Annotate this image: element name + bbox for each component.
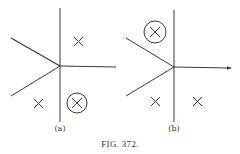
- cross-icon: [34, 99, 43, 108]
- panel-label-a: (a): [54, 124, 65, 133]
- upper-left-ray-a: [11, 38, 60, 66]
- lower-left-ray-b: [126, 67, 174, 96]
- cross-icon: [74, 37, 83, 46]
- lower-left-ray-a: [11, 66, 60, 96]
- figure-caption: FIG. 372.: [101, 139, 138, 149]
- figure-diagram: [0, 0, 240, 154]
- circled-cross-icon: [144, 21, 166, 43]
- circled-cross-icon: [67, 93, 87, 113]
- cross-icon: [193, 97, 202, 106]
- panel-label-b: (b): [168, 124, 179, 133]
- horizontal-arrow-b: [174, 67, 230, 68]
- horizontal-ray-a: [60, 66, 116, 67]
- cross-icon: [151, 97, 160, 106]
- arrowhead-icon: [227, 66, 232, 69]
- panel-a: [11, 8, 116, 122]
- panel-b: [126, 10, 232, 122]
